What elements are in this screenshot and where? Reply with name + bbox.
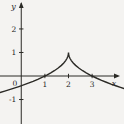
origin-label: 0: [12, 79, 17, 88]
y-tick-label: 1: [11, 48, 16, 57]
y-tick-label: 2: [11, 25, 16, 34]
function-plot-figure: 12321-10xy: [0, 0, 124, 124]
x-tick-label: 1: [42, 80, 47, 89]
x-axis-label: x: [112, 79, 117, 88]
function-plot-canvas: 12321-10xy: [0, 0, 124, 124]
y-axis-label: y: [10, 2, 16, 11]
y-tick-label: -1: [9, 95, 16, 104]
x-tick-label: 2: [66, 80, 71, 89]
x-axis-arrow-icon: [114, 74, 120, 79]
x-tick-label: 3: [90, 80, 95, 89]
curve: [0, 52, 124, 92]
y-axis-arrow-icon: [19, 2, 24, 8]
